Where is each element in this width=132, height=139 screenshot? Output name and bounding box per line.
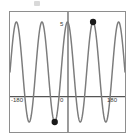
maximum-point: [90, 19, 96, 25]
y-axis-max-label: 5: [60, 21, 63, 27]
x-axis-max-label: 180: [107, 97, 117, 103]
x-axis-min-label: -180: [11, 97, 23, 103]
origin-label: 0: [60, 97, 63, 103]
scan-speck-artifact: [34, 1, 40, 6]
minimum-point: [52, 119, 58, 125]
chart-svg: [10, 12, 125, 132]
chart-figure: -180 180 0 5: [0, 0, 132, 139]
plot-area: [9, 11, 126, 133]
